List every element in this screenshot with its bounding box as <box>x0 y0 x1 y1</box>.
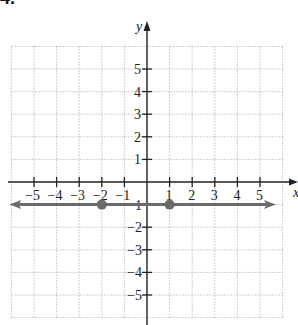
axes: xy <box>8 19 298 325</box>
data-point <box>165 200 175 210</box>
x-axis-label: x <box>292 185 298 200</box>
x-tick-label: −3 <box>70 188 85 203</box>
x-tick-label: 2 <box>188 188 195 203</box>
x-tick-label: −5 <box>25 188 40 203</box>
data-point <box>97 200 107 210</box>
y-tick-label: −2 <box>127 220 142 235</box>
x-tick-label: 5 <box>256 188 263 203</box>
y-tick-label: 5 <box>134 62 141 77</box>
coordinate-plane: xy −5−4−3−2−11234554321−1−2−3−4−5 <box>0 0 298 325</box>
y-tick-label: −4 <box>127 265 142 280</box>
y-tick-label: 3 <box>134 107 141 122</box>
x-tick-label: 4 <box>233 188 240 203</box>
y-tick-label: −5 <box>127 288 142 303</box>
x-tick-label: −4 <box>48 188 63 203</box>
y-axis-label: y <box>134 19 143 34</box>
y-axis-arrow-icon <box>144 21 151 31</box>
y-tick-label: 2 <box>134 130 141 145</box>
y-tick-label: −3 <box>127 243 142 258</box>
y-tick-label: 4 <box>134 85 141 100</box>
y-tick-label: 1 <box>134 152 141 167</box>
x-tick-label: 3 <box>211 188 218 203</box>
